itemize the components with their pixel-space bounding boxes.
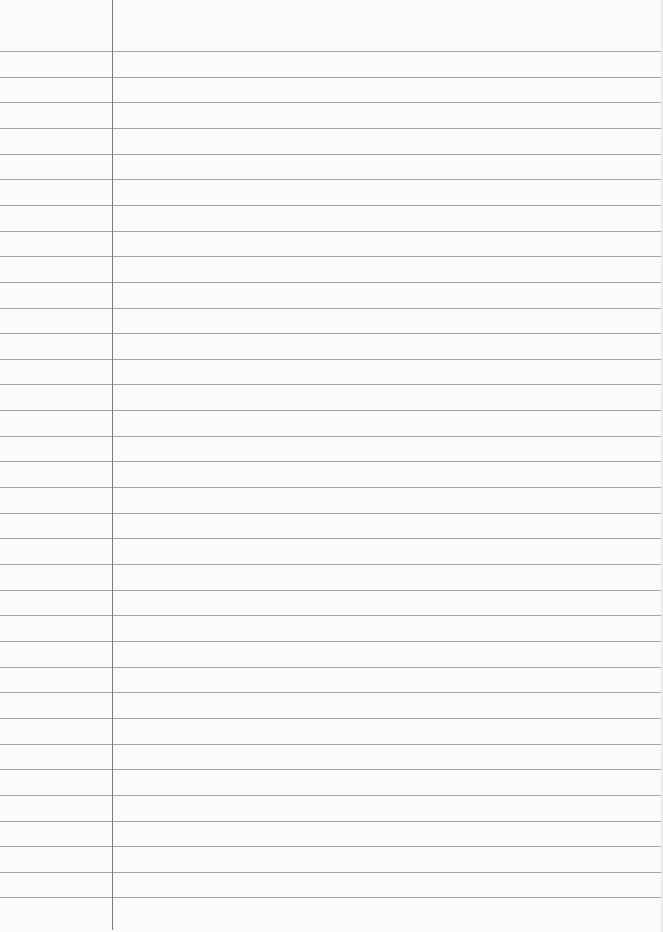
ruled-line <box>0 282 662 283</box>
ruled-line <box>0 231 662 232</box>
ruled-line <box>0 154 662 155</box>
ruled-line <box>0 179 662 180</box>
ruled-line <box>0 821 662 822</box>
ruled-line <box>0 461 662 462</box>
ruled-line <box>0 718 662 719</box>
ruled-line <box>0 51 662 52</box>
ruled-line <box>0 538 662 539</box>
ruled-line <box>0 692 662 693</box>
ruled-line <box>0 205 662 206</box>
ruled-line <box>0 513 662 514</box>
ruled-line <box>0 384 662 385</box>
ruled-line <box>0 795 662 796</box>
ruled-line <box>0 615 662 616</box>
ruled-line <box>0 102 662 103</box>
ruled-line <box>0 436 662 437</box>
ruled-line <box>0 872 662 873</box>
ruled-line <box>0 744 662 745</box>
ruled-line <box>0 308 662 309</box>
lined-paper-sheet <box>0 0 663 932</box>
ruled-line <box>0 769 662 770</box>
ruled-line <box>0 333 662 334</box>
ruled-line <box>0 77 662 78</box>
ruled-line <box>0 846 662 847</box>
margin-line <box>112 0 113 930</box>
ruled-line <box>0 359 662 360</box>
ruled-line <box>0 590 662 591</box>
ruled-line <box>0 128 662 129</box>
ruled-line <box>0 410 662 411</box>
ruled-line <box>0 564 662 565</box>
ruled-line <box>0 897 662 898</box>
ruled-line <box>0 667 662 668</box>
ruled-line <box>0 641 662 642</box>
ruled-line <box>0 487 662 488</box>
ruled-line <box>0 256 662 257</box>
